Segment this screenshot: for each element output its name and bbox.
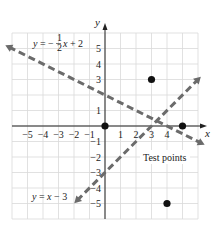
x-tick-label: −5 xyxy=(22,129,33,140)
y-tick-label: 1 xyxy=(96,105,101,116)
test-point xyxy=(179,122,186,129)
test-point xyxy=(163,200,170,207)
x-tick-label: 1 xyxy=(118,129,123,140)
x-tick-label: −4 xyxy=(38,129,49,140)
y-tick-label: 4 xyxy=(96,59,101,70)
y-axis-label: y xyxy=(94,16,100,28)
equation-1-rhs: x + 2 xyxy=(62,38,83,49)
test-point xyxy=(101,122,108,129)
test-point xyxy=(148,76,155,83)
x-axis-label: x xyxy=(204,127,210,139)
equation-label-1: y = − 1 2 x + 2 xyxy=(32,32,83,53)
y-tick-label: −3 xyxy=(90,167,101,178)
chart: −5−4−3−2−112345431−1−2−3−4−5 x y y = − 1… xyxy=(0,0,219,236)
x-tick-label: 4 xyxy=(165,129,170,140)
y-tick-label: −5 xyxy=(90,198,101,209)
equation-1-den: 2 xyxy=(57,42,62,53)
y-tick-label: −1 xyxy=(90,136,101,147)
y-tick-label: −4 xyxy=(90,183,101,194)
y-axis-arrow-icon xyxy=(103,23,108,30)
y-tick-label: 3 xyxy=(96,74,101,85)
x-tick-label: 2 xyxy=(134,129,139,140)
test-points-annotation: Test points xyxy=(143,152,187,163)
x-tick-label: 3 xyxy=(149,129,154,140)
axes xyxy=(12,23,207,219)
x-tick-label: −2 xyxy=(69,129,80,140)
equation-1-lhs: y = − xyxy=(32,38,54,49)
y-tick-label: −2 xyxy=(90,152,101,163)
x-tick-label: −3 xyxy=(53,129,64,140)
equation-label-2: y = x − 3 xyxy=(31,191,67,202)
y-tick-label: 5 xyxy=(96,43,101,54)
